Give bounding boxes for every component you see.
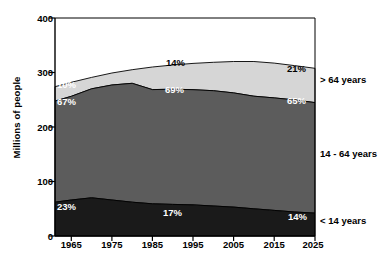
x-tick-label-1985: 1985	[132, 240, 172, 250]
annotation-over64-1990: 14%	[166, 58, 185, 68]
legend-label-14-64: 14 - 64 years	[320, 149, 377, 159]
x-tick-label-1975: 1975	[92, 240, 132, 250]
y-tick-label-100: 100	[13, 177, 53, 187]
annotation-under14-1990: 17%	[163, 208, 182, 218]
annotation-under14-1965: 23%	[57, 202, 76, 212]
legend-label-over-64: > 64 years	[320, 75, 366, 85]
annotation-over64-1965: 10%	[57, 80, 76, 90]
stacked-area-chart: Millions of people 400 300 200 100 0 196…	[0, 0, 392, 264]
annotation-over64-2022: 21%	[287, 64, 306, 74]
area-band-14-64	[55, 83, 315, 213]
legend-label-under-14: < 14 years	[320, 216, 366, 226]
y-tick-label-0: 0	[13, 232, 53, 242]
x-tick-label-2005: 2005	[214, 240, 254, 250]
x-tick-label-1995: 1995	[173, 240, 213, 250]
annotation-14-64-2022: 65%	[287, 96, 306, 106]
x-tick-label-1965: 1965	[51, 240, 91, 250]
y-tick-label-300: 300	[13, 68, 53, 78]
y-tick-label-400: 400	[13, 14, 53, 24]
annotation-under14-2022: 14%	[288, 212, 307, 222]
annotation-14-64-1965: 67%	[57, 97, 76, 107]
y-tick-label-200: 200	[13, 123, 53, 133]
x-tick-label-2025: 2025	[293, 240, 333, 250]
x-tick-label-2015: 2015	[254, 240, 294, 250]
annotation-14-64-1990: 69%	[165, 85, 184, 95]
